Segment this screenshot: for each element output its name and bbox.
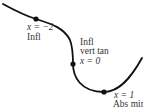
point-x-neg2 (33, 16, 38, 21)
label-x-0-vert-tan: vert tan (80, 46, 109, 56)
label-x-neg2-infl: Infl (27, 32, 41, 42)
label-x-1-abs-min: Abs min (113, 99, 143, 109)
label-x-0: x = 0 (79, 56, 100, 66)
point-x-1 (101, 89, 106, 94)
function-curve (3, 4, 142, 92)
point-x-0 (70, 61, 75, 66)
function-curve-diagram: x = −2 Infl Infl vert tan x = 0 x = 1 Ab… (0, 0, 143, 109)
label-x-neg2: x = −2 (26, 22, 54, 32)
